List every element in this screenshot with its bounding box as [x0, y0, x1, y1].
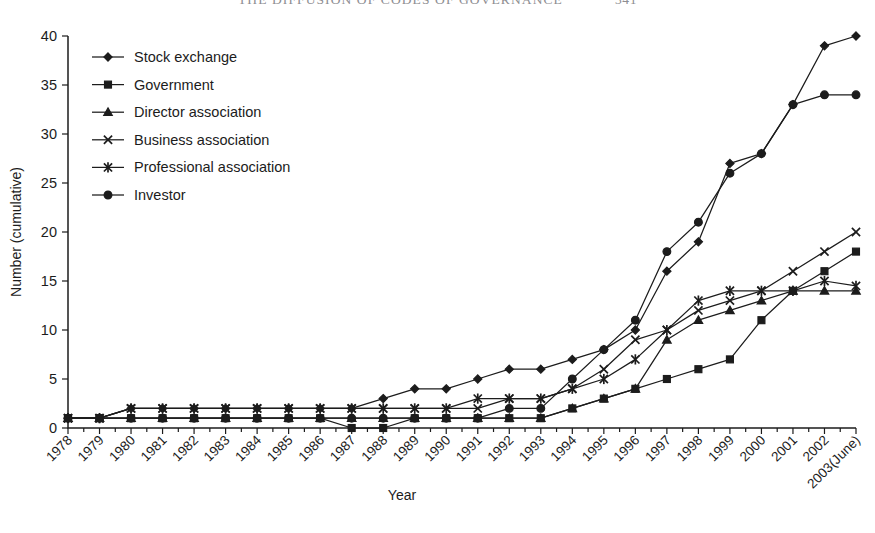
x-tick-label: 1982: [169, 433, 201, 465]
x-tick-label: 1985: [264, 433, 296, 465]
series-marker-diamond: [726, 159, 734, 167]
chart-plot-area: 0510152025303540Number (cumulative)19781…: [8, 28, 863, 503]
x-tick-label: 1997: [642, 433, 674, 465]
series-line: [68, 252, 856, 428]
series-marker-diamond: [411, 385, 419, 393]
series-marker-cross: [694, 306, 702, 314]
series-marker-circle: [190, 414, 198, 422]
series-marker-circle: [852, 91, 860, 99]
series-marker-square: [695, 366, 702, 373]
x-axis-ticks: 1978197919801981198219831984198519861987…: [43, 428, 863, 491]
series-marker-circle: [631, 316, 639, 324]
series-business-association: [64, 228, 860, 422]
y-tick-label: 40: [41, 28, 57, 44]
series-marker-circle: [821, 91, 829, 99]
series-marker-square: [821, 268, 828, 275]
series-marker-circle: [600, 346, 608, 354]
legend-marker-square: [105, 81, 112, 88]
x-tick-label: 1978: [43, 433, 75, 465]
legend-label-text: Director association: [134, 104, 261, 120]
series-line: [68, 291, 856, 418]
series-marker-circle: [316, 414, 324, 422]
series-marker-cross: [726, 297, 734, 305]
y-axis-title-text: Number (cumulative): [8, 167, 24, 297]
series-marker-diamond: [568, 355, 576, 363]
series-marker-circle: [537, 405, 545, 413]
y-axis-ticks: 0510152025303540: [41, 28, 68, 436]
series-marker-circle: [505, 405, 513, 413]
x-tick-label: 1995: [579, 433, 611, 465]
series-marker-diamond: [852, 32, 860, 40]
legend-marker-diamond: [104, 53, 112, 61]
x-tick-label: 1994: [548, 432, 580, 464]
legend-item-stock-exchange[interactable]: Stock exchange: [92, 49, 237, 65]
y-tick-label: 25: [41, 175, 57, 191]
x-tick-label: 2000: [737, 433, 769, 465]
series-marker-circle: [379, 414, 387, 422]
chart-legend: Stock exchangeGovernmentDirector associa…: [92, 49, 290, 203]
series-marker-circle: [348, 414, 356, 422]
x-tick-label: 1996: [611, 433, 643, 465]
y-tick-label: 35: [41, 77, 57, 93]
axis-lines: [68, 36, 856, 428]
series-marker-circle: [127, 414, 135, 422]
series-marker-square: [348, 425, 355, 432]
series-marker-circle: [568, 375, 576, 383]
series-marker-circle: [474, 414, 482, 422]
y-tick-label: 10: [41, 322, 57, 338]
line-chart: 0510152025303540Number (cumulative)19781…: [0, 0, 875, 533]
x-tick-label: 1989: [390, 433, 422, 465]
series-marker-circle: [96, 414, 104, 422]
x-tick-label: 1988: [358, 433, 390, 465]
series-marker-asterisk: [568, 384, 576, 394]
legend-item-investor[interactable]: Investor: [92, 187, 186, 203]
series-marker-square: [380, 425, 387, 432]
series-marker-asterisk: [631, 354, 639, 364]
series-marker-circle: [726, 169, 734, 177]
series-marker-diamond: [474, 375, 482, 383]
legend-item-business-association[interactable]: Business association: [92, 132, 269, 148]
series-marker-diamond: [505, 365, 513, 373]
series-marker-circle: [285, 414, 293, 422]
series-marker-diamond: [442, 385, 450, 393]
y-tick-label: 30: [41, 126, 57, 142]
series-marker-circle: [411, 414, 419, 422]
legend-label-text: Government: [134, 77, 214, 93]
x-tick-label: 1991: [453, 433, 485, 465]
series-marker-cross: [852, 228, 860, 236]
series-marker-circle: [789, 101, 797, 109]
series-marker-cross: [820, 248, 828, 256]
series-marker-circle: [159, 414, 167, 422]
y-axis-title: Number (cumulative): [8, 167, 24, 297]
series-marker-cross: [631, 336, 639, 344]
series-director-association: [64, 286, 861, 421]
chart-axes: [68, 36, 856, 428]
legend-label-text: Business association: [134, 132, 269, 148]
legend-label-text: Investor: [134, 187, 186, 203]
legend-item-director-association[interactable]: Director association: [92, 104, 261, 120]
x-tick-label: 1979: [75, 433, 107, 465]
series-marker-cross: [789, 267, 797, 275]
series-marker-circle: [442, 414, 450, 422]
series-marker-circle: [663, 248, 671, 256]
series-marker-circle: [222, 414, 230, 422]
series-marker-asterisk: [663, 325, 671, 335]
x-tick-label: 1992: [485, 433, 517, 465]
x-tick-label: 1993: [516, 433, 548, 465]
legend-item-professional-association[interactable]: Professional association: [92, 159, 290, 175]
legend-item-government[interactable]: Government: [92, 77, 214, 93]
x-tick-label: 1986: [295, 433, 327, 465]
series-marker-square: [853, 248, 860, 255]
y-tick-label: 0: [49, 420, 57, 436]
y-tick-label: 20: [41, 224, 57, 240]
x-tick-label: 1998: [674, 433, 706, 465]
legend-marker-circle: [104, 191, 112, 199]
x-tick-label: 1984: [232, 432, 264, 464]
x-tick-label: 1999: [705, 433, 737, 465]
legend-label-text: Stock exchange: [134, 49, 237, 65]
y-tick-label: 15: [41, 273, 57, 289]
x-tick-label: 1990: [422, 433, 454, 465]
x-tick-label: 2001: [768, 433, 800, 465]
series-line: [68, 36, 856, 418]
y-tick-label: 5: [49, 371, 57, 387]
